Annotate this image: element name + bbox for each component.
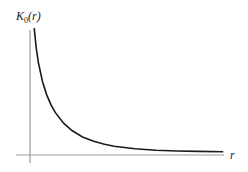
x-axis-label: r <box>230 148 235 162</box>
chart: K0(r) r <box>0 0 248 172</box>
k0-curve <box>34 28 223 152</box>
y-axis-label: K0(r) <box>15 9 41 25</box>
